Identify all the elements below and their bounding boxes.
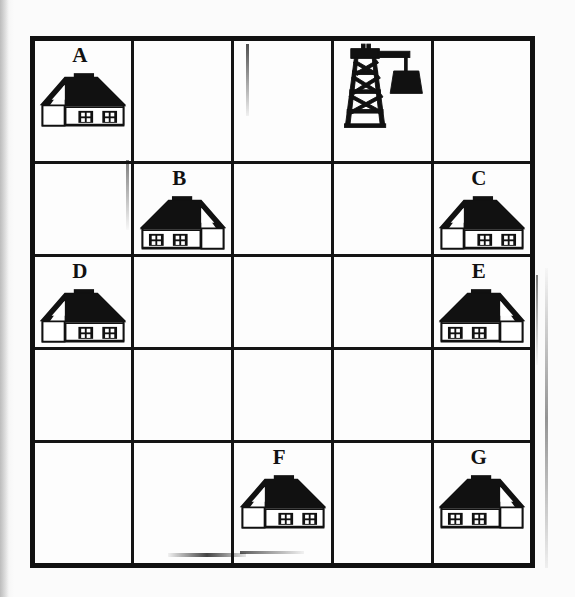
paper-edge-artifact [0, 0, 9, 597]
grid-cell-empty[interactable] [333, 349, 433, 442]
grid-cell-empty[interactable] [333, 442, 433, 566]
grid-cell-label: B [172, 167, 187, 189]
grid-row: BC [33, 163, 533, 256]
grid-cell-label: A [72, 44, 88, 66]
grid-cell-content [434, 41, 530, 161]
grid-cell-empty[interactable] [133, 256, 233, 349]
grid-cell-empty[interactable] [33, 442, 133, 566]
grid-cell-empty[interactable] [233, 39, 333, 163]
grid-row: FG [33, 442, 533, 566]
grid-cell-label: F [273, 446, 286, 468]
grid-cell-content [35, 443, 131, 563]
grid-cell-content [334, 350, 431, 440]
grid-cell-content: F [234, 443, 331, 563]
crane-tower-icon [340, 42, 426, 134]
grid-cell-empty[interactable] [233, 256, 333, 349]
grid-cell-empty[interactable] [433, 39, 533, 163]
grid-cell-empty[interactable] [133, 349, 233, 442]
grid-cell-empty[interactable] [333, 163, 433, 256]
grid-cell-empty[interactable] [33, 349, 133, 442]
grid-cell-content [234, 164, 331, 254]
grid-map: ABCDEFG [30, 36, 535, 568]
grid-cell-content [35, 350, 131, 440]
grid-cell-occupied[interactable]: C [433, 163, 533, 256]
grid-cell-content: D [35, 257, 131, 347]
scan-edge-artifact [536, 275, 538, 365]
grid-cell-empty[interactable] [333, 256, 433, 349]
grid-cell-content [234, 350, 331, 440]
house-icon [137, 190, 229, 252]
grid-cell-occupied[interactable]: A [33, 39, 133, 163]
grid-cell-occupied[interactable]: E [433, 256, 533, 349]
grid-row [33, 349, 533, 442]
grid-cell-occupied[interactable] [333, 39, 433, 163]
grid-cell-empty[interactable] [233, 163, 333, 256]
grid-cell-content [434, 350, 530, 440]
grid-cell-content: C [434, 164, 530, 254]
grid-cell-empty[interactable] [433, 349, 533, 442]
grid-cell-content [234, 257, 331, 347]
grid-cell-occupied[interactable]: D [33, 256, 133, 349]
house-icon [436, 190, 528, 252]
house-icon [37, 67, 129, 129]
grid-cell-occupied[interactable]: G [433, 442, 533, 566]
grid-cell-label: G [471, 446, 488, 468]
grid-cell-content [334, 257, 431, 347]
house-icon [436, 283, 528, 345]
grid-cell-occupied[interactable]: F [233, 442, 333, 566]
grid-cell-content [334, 443, 431, 563]
grid-cell-content [234, 41, 331, 161]
scan-edge-artifact [545, 268, 548, 568]
grid-cell-occupied[interactable]: B [133, 163, 233, 256]
grid-cell-content [134, 443, 231, 563]
grid-cell-content [134, 350, 231, 440]
grid-cell-empty[interactable] [133, 39, 233, 163]
grid-cell-content: E [434, 257, 530, 347]
grid-cell-content [334, 41, 431, 161]
grid-cell-empty[interactable] [33, 163, 133, 256]
house-icon [37, 283, 129, 345]
grid-cell-empty[interactable] [133, 442, 233, 566]
grid-cell-empty[interactable] [233, 349, 333, 442]
grid-cell-label: D [72, 260, 88, 282]
grid-cell-content [134, 41, 231, 161]
grid-cell-label: C [471, 167, 487, 189]
grid-cell-content: B [134, 164, 231, 254]
house-icon [436, 469, 528, 531]
grid-cell-content: A [35, 41, 131, 161]
grid-cell-content [35, 164, 131, 254]
grid-cell-label: E [472, 260, 487, 282]
house-icon [237, 469, 329, 531]
grid-cell-content [334, 164, 431, 254]
grid-cell-content [134, 257, 231, 347]
grid-row: DE [33, 256, 533, 349]
scan-sheet: ABCDEFG [0, 0, 575, 597]
grid-row: A [33, 39, 533, 163]
grid-cell-content: G [434, 443, 530, 563]
